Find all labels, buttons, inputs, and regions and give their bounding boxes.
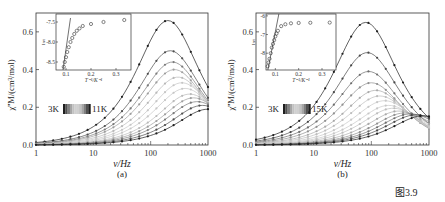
inset-y-tick: -7 bbox=[260, 32, 265, 38]
legend-gradient bbox=[299, 104, 301, 114]
legend-low-label: 3K bbox=[48, 104, 60, 114]
x-tick-label: 100 bbox=[144, 148, 157, 158]
legend-gradient bbox=[79, 104, 81, 114]
legend-gradient bbox=[88, 104, 90, 114]
legend-gradient bbox=[308, 104, 310, 114]
legend-gradient bbox=[81, 104, 83, 114]
legend-gradient bbox=[292, 104, 294, 114]
inset-plot: -6-7-80.10.20.3T⁻¹/K⁻¹lnτ bbox=[251, 13, 336, 83]
legend-gradient bbox=[297, 104, 299, 114]
inset-x-tick: 0.1 bbox=[272, 71, 279, 77]
inset-x-tick: 0.3 bbox=[319, 71, 326, 77]
x-tick-label: 1000 bbox=[200, 148, 217, 158]
x-tick-label: 100 bbox=[365, 148, 378, 158]
legend-gradient bbox=[290, 104, 292, 114]
y-tick-label: 0.2 bbox=[242, 102, 253, 112]
x-axis-label: ν/Hz bbox=[334, 159, 352, 169]
inset-y-tick: -8.5 bbox=[46, 59, 55, 65]
legend-gradient bbox=[86, 104, 88, 114]
panel-label: (b) bbox=[337, 169, 348, 179]
x-tick-label: 10 bbox=[309, 148, 318, 158]
legend-gradient bbox=[301, 104, 303, 114]
legend-gradient bbox=[285, 104, 287, 114]
inset-y-tick: -6 bbox=[260, 13, 265, 19]
y-axis-label: χ''M/(cm³/mol) bbox=[6, 59, 16, 111]
y-tick-label: 0.6 bbox=[242, 27, 253, 37]
y-axis-label: χ''M/(cm³/mol) bbox=[226, 59, 236, 111]
inset-x-tick: 0.1 bbox=[63, 71, 70, 77]
inset-y-tick: -8 bbox=[260, 50, 265, 56]
legend-gradient bbox=[68, 104, 70, 114]
y-tick-label: 0.4 bbox=[22, 65, 33, 75]
legend-gradient bbox=[288, 104, 290, 114]
figure-canvas: 0.00.20.40.61101001000ν/Hzχ''M/(cm³/mol)… bbox=[0, 0, 445, 202]
legend-gradient bbox=[75, 104, 77, 114]
x-axis-label: ν/Hz bbox=[113, 159, 131, 169]
chart-panel-b: 0.00.20.40.61101001000ν/Hzχ''M/(cm³/mol)… bbox=[226, 13, 438, 179]
x-tick-label: 1000 bbox=[421, 148, 438, 158]
chart-panel-a: 0.00.20.40.61101001000ν/Hzχ''M/(cm³/mol)… bbox=[6, 13, 217, 179]
x-tick-label: 10 bbox=[89, 148, 98, 158]
y-tick-label: 0.6 bbox=[22, 27, 33, 37]
x-tick-label: 1 bbox=[34, 148, 38, 158]
legend-gradient bbox=[72, 104, 74, 114]
legend-gradient bbox=[84, 104, 86, 114]
inset-x-label: T⁻¹/K⁻¹ bbox=[85, 77, 103, 83]
legend-high-label: 11K bbox=[92, 104, 108, 114]
legend-gradient bbox=[304, 104, 306, 114]
legend-gradient bbox=[306, 104, 308, 114]
x-tick-label: 1 bbox=[254, 148, 258, 158]
legend-gradient bbox=[77, 104, 79, 114]
y-tick-label: 0.0 bbox=[242, 140, 253, 150]
inset-y-label: lnτ bbox=[41, 39, 46, 45]
legend-high-label: 15K bbox=[312, 104, 328, 114]
legend-gradient bbox=[63, 104, 65, 114]
inset-y-tick: -8.0 bbox=[46, 39, 55, 45]
inset-y-label: lnτ bbox=[251, 39, 256, 45]
y-tick-label: 0.4 bbox=[242, 65, 253, 75]
legend-gradient bbox=[70, 104, 72, 114]
inset-y-tick: -7.5 bbox=[46, 19, 55, 25]
legend-gradient bbox=[295, 104, 297, 114]
panel-label: (a) bbox=[117, 169, 127, 179]
inset-plot: -7.5-8.0-8.50.10.20.3T⁻¹/K⁻¹lnτ bbox=[41, 14, 131, 83]
y-tick-label: 0.2 bbox=[22, 102, 33, 112]
legend-low-label: 3K bbox=[268, 104, 280, 114]
inset-x-label: T⁻¹/K⁻¹ bbox=[292, 77, 310, 83]
inset-x-tick: 0.3 bbox=[113, 71, 120, 77]
figure-caption: 图3.9 bbox=[395, 184, 418, 199]
legend-gradient bbox=[283, 104, 285, 114]
legend-gradient bbox=[65, 104, 67, 114]
y-tick-label: 0.0 bbox=[22, 140, 33, 150]
